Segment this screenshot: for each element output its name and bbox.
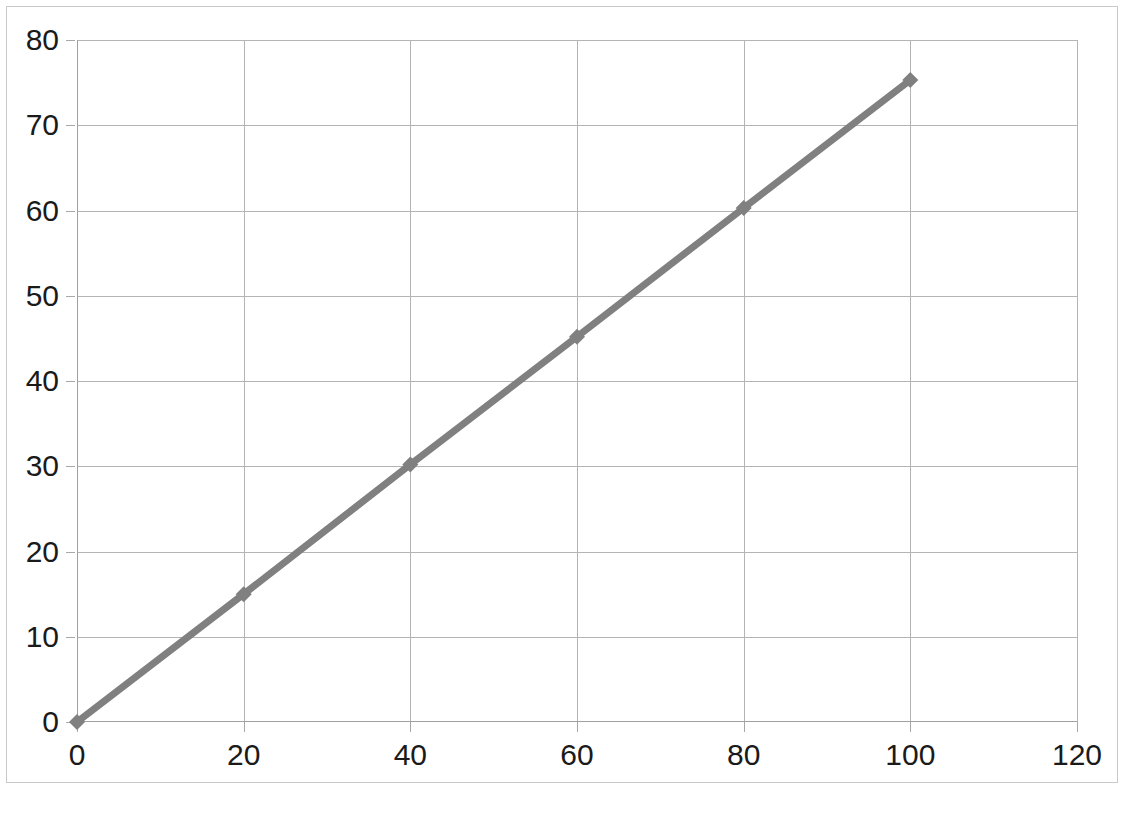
y-tick-mark [66, 552, 75, 553]
x-tick-label: 40 [394, 740, 427, 770]
x-tick-mark [410, 722, 411, 732]
gridline-vertical [1077, 40, 1078, 722]
x-tick-label: 20 [227, 740, 260, 770]
chart-screenshot: 01020304050607080 020406080100120 [0, 0, 1125, 822]
series-1-line [77, 80, 910, 722]
y-tick-mark [66, 40, 75, 41]
x-tick-label: 80 [727, 740, 760, 770]
y-tick-mark [66, 211, 75, 212]
y-tick-label: 50 [26, 281, 59, 311]
x-tick-label: 120 [1052, 740, 1102, 770]
x-tick-label: 0 [69, 740, 86, 770]
y-tick-label: 70 [26, 110, 59, 140]
y-tick-label: 30 [26, 451, 59, 481]
x-tick-label: 60 [560, 740, 593, 770]
x-tick-mark [244, 722, 245, 732]
series-line-layer [77, 40, 1077, 722]
y-tick-mark [66, 466, 75, 467]
x-tick-mark [1077, 722, 1078, 732]
y-tick-label: 10 [26, 622, 59, 652]
y-tick-mark [66, 125, 75, 126]
y-tick-label: 20 [26, 537, 59, 567]
y-tick-mark [66, 381, 75, 382]
plot-area: 01020304050607080 020406080100120 [77, 40, 1077, 722]
x-tick-mark [910, 722, 911, 732]
y-tick-mark [66, 296, 75, 297]
y-tick-label: 40 [26, 366, 59, 396]
y-tick-label: 0 [42, 707, 59, 737]
x-tick-mark [744, 722, 745, 732]
x-tick-mark [577, 722, 578, 732]
x-tick-label: 100 [885, 740, 935, 770]
y-tick-mark [66, 637, 75, 638]
y-tick-label: 60 [26, 196, 59, 226]
y-tick-label: 80 [26, 25, 59, 55]
chart-frame: 01020304050607080 020406080100120 [6, 6, 1118, 783]
